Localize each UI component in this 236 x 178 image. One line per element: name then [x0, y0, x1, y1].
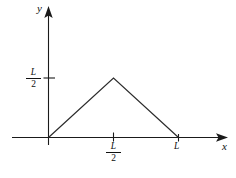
x-axis-tick-label-L: L	[174, 142, 179, 152]
x-tick-denominator: 2	[106, 154, 121, 164]
x-axis-tick-label-half: L 2	[106, 142, 121, 163]
triangular-function-figure: y x L 2 L 2 L	[0, 0, 236, 178]
y-tick-numerator: L	[26, 68, 41, 78]
triangular-waveform-curve	[49, 78, 179, 138]
x-axis-label: x	[222, 141, 227, 152]
x-tick-numerator: L	[106, 142, 121, 152]
y-axis-tick-label-half: L 2	[26, 68, 41, 89]
y-tick-denominator: 2	[26, 80, 41, 90]
y-axis-label: y	[37, 3, 42, 14]
